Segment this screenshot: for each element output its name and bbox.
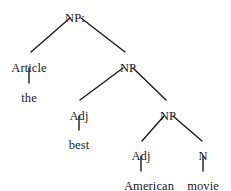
tree-node-n-1: N xyxy=(198,150,207,163)
tree-node-article: Article xyxy=(11,62,46,75)
tree-edge-np-2-to-adj-1 xyxy=(80,68,123,100)
tree-node-np-3: NP xyxy=(160,110,176,123)
tree-edge-np-2-to-np-3 xyxy=(133,68,166,100)
tree-node-adj-2: Adj xyxy=(131,150,150,163)
tree-terminal-the: the xyxy=(21,92,37,105)
syntax-tree-figure: NP:ArticleNPAdjNPAdjN thebestAmericanmov… xyxy=(0,0,231,191)
tree-terminal-best: best xyxy=(69,139,90,152)
tree-edge-np-3-to-n-1 xyxy=(173,116,202,141)
tree-terminal-movie: movie xyxy=(187,180,219,191)
tree-node-np-root: NP: xyxy=(65,12,85,25)
tree-node-adj-1: Adj xyxy=(69,110,88,123)
tree-node-np-2: NP xyxy=(120,62,136,75)
tree-edge-np-root-to-np-2 xyxy=(81,18,125,52)
tree-terminal-american: American xyxy=(124,180,174,191)
